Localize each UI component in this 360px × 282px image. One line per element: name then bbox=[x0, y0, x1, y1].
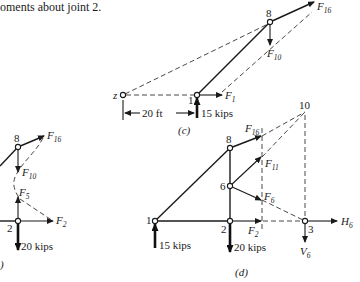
label-load-20-kips: 20 kips bbox=[21, 240, 53, 252]
joint-8 bbox=[267, 19, 272, 24]
label-f1: F1 bbox=[224, 89, 235, 104]
dashed-line-z-to-8 bbox=[125, 24, 268, 94]
label-node-2: 2 bbox=[7, 222, 13, 234]
label-f16: F16 bbox=[46, 129, 61, 144]
caption-part-d: (d) bbox=[235, 266, 248, 279]
joint-6 bbox=[227, 183, 232, 188]
label-f2: F2 bbox=[55, 214, 67, 229]
member-to-8 bbox=[0, 147, 18, 166]
dashed-line-f11-to-10 bbox=[262, 112, 305, 157]
label-z: z bbox=[112, 89, 118, 101]
label-node-10: 10 bbox=[299, 99, 311, 111]
label-f10: F10 bbox=[21, 166, 36, 181]
diagram-part-b: 8 2 F16 F10 F5 F2 20 kips ) bbox=[0, 129, 67, 271]
label-node-1: 1 bbox=[146, 214, 152, 226]
joint-8 bbox=[227, 145, 232, 150]
label-f6: F6 bbox=[263, 190, 275, 205]
label-h6: H6 bbox=[340, 215, 353, 230]
label-load-15-kips: 15 kips bbox=[201, 107, 233, 119]
label-f16: F16 bbox=[244, 122, 259, 137]
force-arrow-f16 bbox=[270, 2, 314, 22]
label-f16: F16 bbox=[316, 0, 331, 15]
force-arrow-f16 bbox=[18, 136, 44, 147]
member-1-8 bbox=[155, 148, 230, 221]
joint-2 bbox=[227, 218, 232, 223]
force-arrow-f11 bbox=[230, 157, 261, 186]
label-load-15-kips: 15 kips bbox=[159, 239, 191, 251]
label-load-20-kips: 20 kips bbox=[234, 241, 266, 253]
label-v6: V6 bbox=[300, 245, 311, 260]
dashed-line-f6-to-3 bbox=[262, 200, 303, 220]
joint-3 bbox=[302, 218, 307, 223]
joint-2 bbox=[15, 218, 20, 223]
label-f11: F11 bbox=[264, 157, 279, 172]
dashed-line-f16-to-10 bbox=[262, 112, 305, 136]
label-dimension-20ft: 20 ft bbox=[142, 107, 162, 119]
label-node-8: 8 bbox=[266, 7, 272, 19]
caption-part-c: (c) bbox=[178, 124, 191, 137]
joint-8 bbox=[15, 144, 20, 149]
label-node-8: 8 bbox=[226, 133, 232, 145]
label-f2: F2 bbox=[247, 224, 259, 239]
force-arrow-f6 bbox=[230, 186, 261, 200]
diagram-part-c: z 1 8 20 ft 15 kips F1 F10 F16 (c) bbox=[112, 0, 331, 137]
caption-part-b: ) bbox=[0, 258, 4, 271]
point-z bbox=[120, 92, 125, 97]
label-node-6: 6 bbox=[220, 180, 226, 192]
joint-1 bbox=[194, 92, 199, 97]
dashed-section-line bbox=[20, 199, 53, 221]
label-node-3: 3 bbox=[308, 223, 314, 235]
force-arrow-f16 bbox=[230, 136, 261, 148]
label-node-8: 8 bbox=[14, 132, 20, 144]
joint-1 bbox=[152, 218, 157, 223]
label-f10: F10 bbox=[266, 47, 281, 62]
label-node-1: 1 bbox=[188, 94, 194, 106]
label-f5: F5 bbox=[18, 186, 30, 201]
label-node-2: 2 bbox=[221, 223, 227, 235]
truss-free-body-diagrams: z 1 8 20 ft 15 kips F1 F10 F16 (c) 8 2 F… bbox=[0, 0, 360, 282]
